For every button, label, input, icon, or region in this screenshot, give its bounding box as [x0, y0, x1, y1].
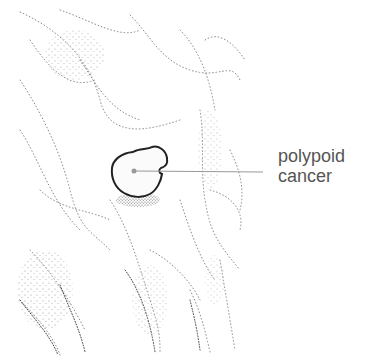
label-line-2: cancer [278, 166, 345, 186]
polypoid-cancer-label: polypoid cancer [278, 146, 345, 186]
label-line-1: polypoid [278, 146, 345, 166]
